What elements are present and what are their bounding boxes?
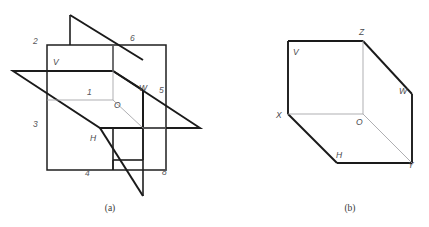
figure-container: 2 V 6 1 O W 5 3 H 4 8 (a) <box>0 0 429 227</box>
plane-w-b-outline <box>363 41 412 163</box>
panel-a-group: 2 V 6 1 O W 5 3 H 4 8 (a) <box>13 15 200 214</box>
plane-v-internal-edges <box>13 71 200 170</box>
label-plane-h: H <box>90 133 97 143</box>
label-quadrant-8: 8 <box>162 167 167 177</box>
plane-v-rect <box>47 45 166 170</box>
label-quadrant-6: 6 <box>130 33 135 43</box>
origin-edges-b <box>288 41 412 163</box>
panel-b-group: Z V W X O H Y (b) <box>275 27 415 214</box>
w-diagonal-bottom <box>100 128 143 196</box>
label-plane-v: V <box>53 57 60 67</box>
label-quadrant-1: 1 <box>87 87 92 97</box>
label-plane-v-b: V <box>293 47 300 57</box>
label-plane-h-b: H <box>336 150 343 160</box>
label-quadrant-3: 3 <box>33 119 38 129</box>
figure-svg: 2 V 6 1 O W 5 3 H 4 8 (a) <box>0 0 429 227</box>
plane-h-parallelogram <box>13 71 200 128</box>
plane-v-b-square <box>288 41 363 114</box>
plane-h-b-outline <box>288 114 412 163</box>
label-quadrant-4: 4 <box>85 168 90 178</box>
caption-panel-b: (b) <box>344 203 355 214</box>
label-quadrant-5: 5 <box>159 85 164 95</box>
label-plane-w-b: W <box>399 86 408 96</box>
plane-v-outline <box>47 45 166 170</box>
plane-v-b-outline <box>288 41 363 114</box>
label-vertex-z: Z <box>358 27 365 37</box>
label-origin-o-b: O <box>356 117 363 127</box>
caption-panel-a: (a) <box>105 203 116 214</box>
plane-h-outline <box>13 71 200 128</box>
edge-o-to-y <box>363 114 412 163</box>
label-vertex-y: Y <box>408 160 415 170</box>
label-plane-w: W <box>139 83 148 93</box>
label-origin-o: O <box>114 100 121 110</box>
label-vertex-x: X <box>275 110 282 120</box>
h-b-left-slant <box>288 114 337 163</box>
label-quadrant-2: 2 <box>32 36 38 46</box>
construction-lines <box>47 45 166 128</box>
